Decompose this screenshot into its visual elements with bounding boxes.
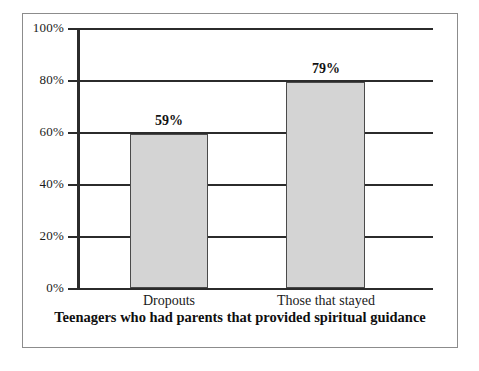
bar-value-those-that-stayed: 79% [286, 62, 366, 76]
gridline-80 [77, 80, 433, 82]
bar-dropouts[interactable] [130, 134, 208, 288]
plot-area [77, 28, 433, 288]
ytick-label-0: 0% [2, 281, 64, 294]
ytick-label-100: 100% [2, 21, 64, 34]
ytick-label-60: 60% [2, 125, 64, 138]
bar-those-that-stayed[interactable] [286, 82, 365, 288]
gridline-100 [77, 28, 433, 30]
category-label-those-that-stayed: Those that stayed [256, 294, 396, 308]
chart-caption: Teenagers who had parents that provided … [30, 310, 450, 326]
category-label-dropouts: Dropouts [109, 294, 229, 308]
chart-figure: 100% 80% 60% 40% 20% 0% 59% 79% Dropouts [0, 0, 479, 371]
ytick-label-40: 40% [2, 177, 64, 190]
ytick-label-80: 80% [2, 73, 64, 86]
gridline-0 [77, 288, 433, 290]
bar-value-dropouts: 59% [129, 114, 209, 128]
ytick-label-20: 20% [2, 229, 64, 242]
